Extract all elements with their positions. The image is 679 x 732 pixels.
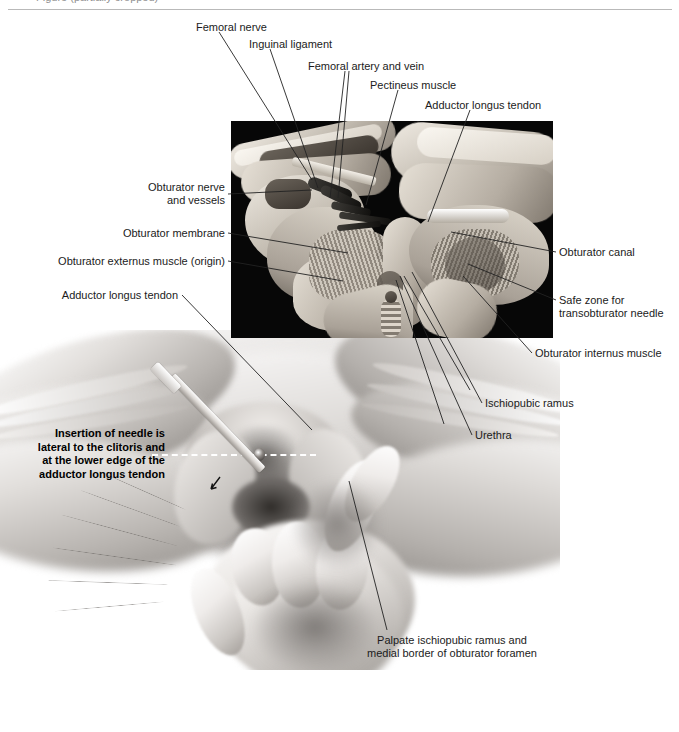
header-strip: Figure (partially cropped) bbox=[0, 0, 679, 10]
label-urethra: Urethra bbox=[475, 429, 512, 442]
label-inguinal-ligament: Inguinal ligament bbox=[249, 38, 332, 51]
label-femoral-nerve: Femoral nerve bbox=[196, 21, 267, 34]
caption-palpate-ischiopubic-ramus: Palpate ischiopubic ramus and medial bor… bbox=[357, 634, 547, 660]
dashed-guide-line bbox=[152, 454, 316, 456]
label-ischiopubic-ramus: Ischiopubic ramus bbox=[485, 397, 574, 410]
needle-direction-arrow bbox=[208, 476, 222, 492]
label-obturator-nerve-and-vessels: Obturator nerve and vessels bbox=[110, 181, 225, 207]
figure-page: Figure (partially cropped) bbox=[0, 0, 679, 732]
label-adductor-longus-tendon-left: Adductor longus tendon bbox=[45, 289, 178, 302]
callout-needle-insertion-instruction: Insertion of needle is lateral to the cl… bbox=[25, 427, 165, 481]
label-obturator-canal: Obturator canal bbox=[559, 246, 635, 259]
label-obturator-membrane: Obturator membrane bbox=[85, 227, 225, 240]
perineum-illustration bbox=[0, 330, 560, 670]
pelvis-dissection-photo bbox=[231, 121, 553, 338]
label-obturator-externus-muscle-origin: Obturator externus muscle (origin) bbox=[45, 255, 225, 268]
header-clipped-text: Figure (partially cropped) bbox=[36, 0, 158, 3]
label-adductor-longus-tendon-top: Adductor longus tendon bbox=[425, 99, 541, 112]
label-pectineus-muscle: Pectineus muscle bbox=[370, 79, 456, 92]
label-obturator-internus-muscle: Obturator internus muscle bbox=[535, 347, 662, 360]
label-safe-zone-for-transobturator-needle: Safe zone for transobturator needle bbox=[559, 294, 664, 320]
label-femoral-artery-and-vein: Femoral artery and vein bbox=[308, 60, 424, 73]
header-rule bbox=[8, 9, 672, 10]
